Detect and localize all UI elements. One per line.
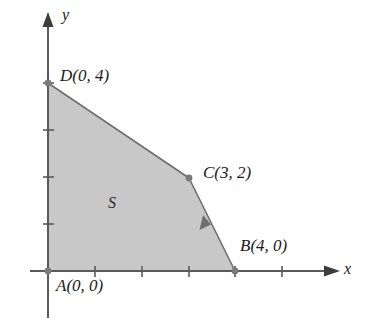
vertex-dot-A xyxy=(45,268,52,275)
vertex-label-C: C(3, 2) xyxy=(203,163,251,183)
vertex-label-B: B(4, 0) xyxy=(240,236,287,256)
figure-container: y x D(0, 4) C(3, 2) B(4, 0) A(0, 0) S xyxy=(0,0,368,328)
y-axis-arrowhead-icon xyxy=(43,12,54,27)
vertex-dot-D xyxy=(45,80,52,87)
vertex-label-D: D(0, 4) xyxy=(60,66,109,86)
y-axis-label: y xyxy=(62,6,69,24)
x-axis-arrowhead-icon xyxy=(324,266,340,277)
vertex-label-A: A(0, 0) xyxy=(56,276,103,296)
region-label-S: S xyxy=(108,194,116,212)
vertex-dot-B xyxy=(232,268,239,275)
vertex-dot-C xyxy=(186,175,193,182)
x-axis-label: x xyxy=(344,260,351,278)
